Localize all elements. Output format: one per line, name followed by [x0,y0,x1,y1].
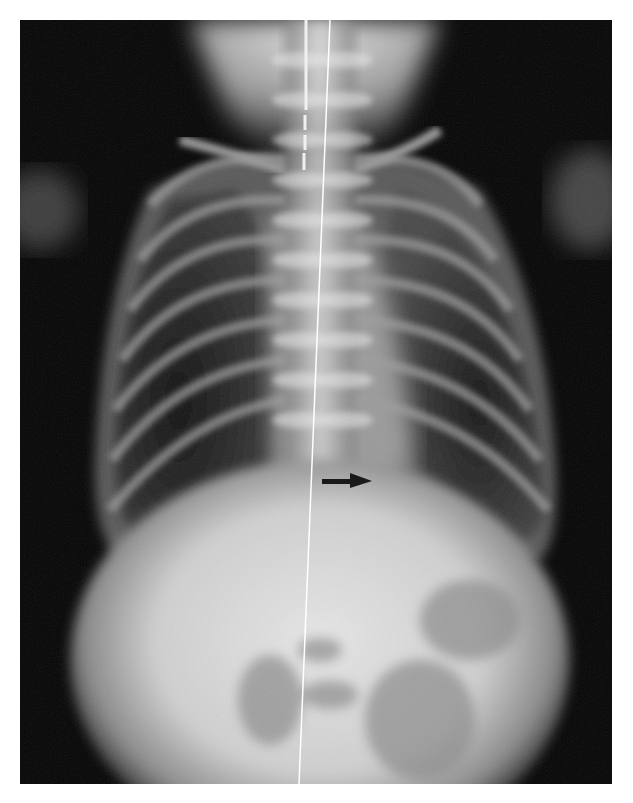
radiograph-image [20,20,612,784]
radiograph-film [20,20,612,784]
